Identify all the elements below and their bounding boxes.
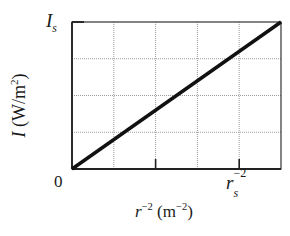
origin-label: 0 xyxy=(54,172,63,192)
x-tick-label-rs: r−2s xyxy=(226,172,251,194)
y-axis-unit: (W/m xyxy=(9,85,29,132)
x-axis-label: r−2 (m−2) xyxy=(135,202,193,222)
y-axis-label: I (W/m2) xyxy=(9,51,30,161)
y-tick-label-max: Is xyxy=(46,10,57,32)
x-axis-unit: (m xyxy=(153,202,176,221)
y-axis-unit-close: ) xyxy=(9,73,29,79)
y-tick-subscript: s xyxy=(52,22,57,35)
x-axis-symbol: r xyxy=(135,202,142,221)
x-axis-unit-exponent: −2 xyxy=(176,201,187,212)
x-tick-symbol: r xyxy=(226,172,233,193)
data-line xyxy=(72,22,281,169)
y-axis-unit-exponent: 2 xyxy=(8,79,20,85)
x-axis-unit-close: ) xyxy=(187,202,193,221)
y-axis-symbol: I xyxy=(9,132,29,138)
x-axis-exponent: −2 xyxy=(142,201,153,212)
